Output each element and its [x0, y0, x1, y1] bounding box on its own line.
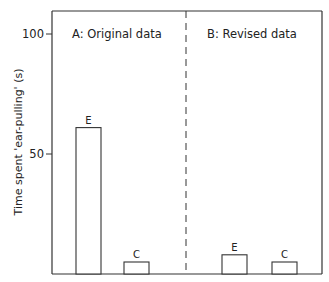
bar-label: C [133, 249, 140, 260]
y-tick-label: 100 [22, 27, 44, 41]
bar-chart: 50100 Time spent 'ear-pulling' (s) A: Or… [0, 0, 329, 282]
bar-label: E [231, 242, 237, 253]
y-tick-label: 50 [29, 147, 44, 161]
bar-label: C [281, 249, 288, 260]
y-axis-label: Time spent 'ear-pulling' (s) [12, 69, 25, 217]
bar-a-c [124, 262, 149, 274]
panel-b-label: B: Revised data [207, 27, 297, 41]
bar-b-e [222, 255, 247, 274]
bar-a-e [76, 128, 101, 274]
panel-a-label: A: Original data [72, 27, 162, 41]
bar-b-c [272, 262, 297, 274]
y-ticks: 50100 [22, 27, 52, 161]
bar-label: E [85, 115, 91, 126]
